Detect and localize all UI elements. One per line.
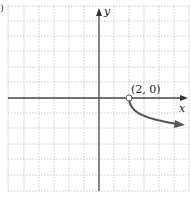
y-axis-label: y <box>103 5 111 18</box>
graph: y x (2, 0) <box>0 0 191 198</box>
curve-arrow-icon <box>174 120 185 128</box>
x-axis-label: x <box>179 102 186 115</box>
y-axis-arrow-icon <box>96 8 102 16</box>
x-axis-arrow-icon <box>180 95 188 101</box>
axes <box>8 12 184 191</box>
point-label: (2, 0) <box>131 83 161 96</box>
curve <box>129 99 178 124</box>
